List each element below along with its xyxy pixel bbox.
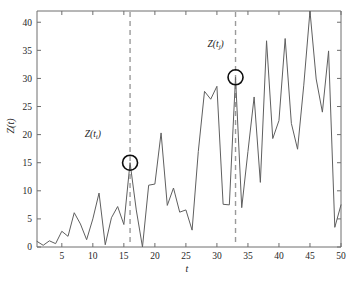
chart-figure: 05101520253035405101520253035404550 Z(ti…: [0, 0, 350, 281]
x-tick-label: 30: [212, 251, 222, 261]
line-chart: 05101520253035405101520253035404550 Z(ti…: [0, 0, 350, 281]
y-tick-label: 20: [23, 130, 33, 140]
x-tick-label: 40: [274, 251, 284, 261]
x-tick-label: 25: [181, 251, 191, 261]
y-tick-label: 0: [27, 242, 32, 252]
y-axis-title: Z(t): [5, 118, 17, 134]
x-tick-label: 15: [119, 251, 129, 261]
annotation-ztj: Z(tj): [208, 39, 224, 52]
axis-frame: [37, 11, 341, 247]
series-line-zt: [37, 11, 341, 247]
x-axis-title: t: [186, 263, 189, 274]
x-tick-label: 10: [88, 251, 98, 261]
y-tick-label: 5: [27, 214, 32, 224]
y-tick-label: 10: [23, 186, 33, 196]
highlight-markers: [123, 70, 243, 170]
y-tick-label: 40: [23, 18, 33, 28]
y-tick-label: 35: [23, 46, 33, 56]
x-tick-label: 45: [305, 251, 315, 261]
y-tick-label: 15: [23, 158, 33, 168]
data-series: [37, 11, 341, 247]
annotations: Z(ti)Z(tj): [85, 39, 224, 141]
annotation-zti: Z(ti): [85, 129, 101, 142]
y-tick-label: 30: [23, 74, 33, 84]
x-tick-label: 5: [59, 251, 64, 261]
y-tick-label: 25: [23, 102, 33, 112]
x-tick-label: 35: [243, 251, 253, 261]
x-tick-label: 20: [150, 251, 160, 261]
x-tick-label: 50: [336, 251, 346, 261]
